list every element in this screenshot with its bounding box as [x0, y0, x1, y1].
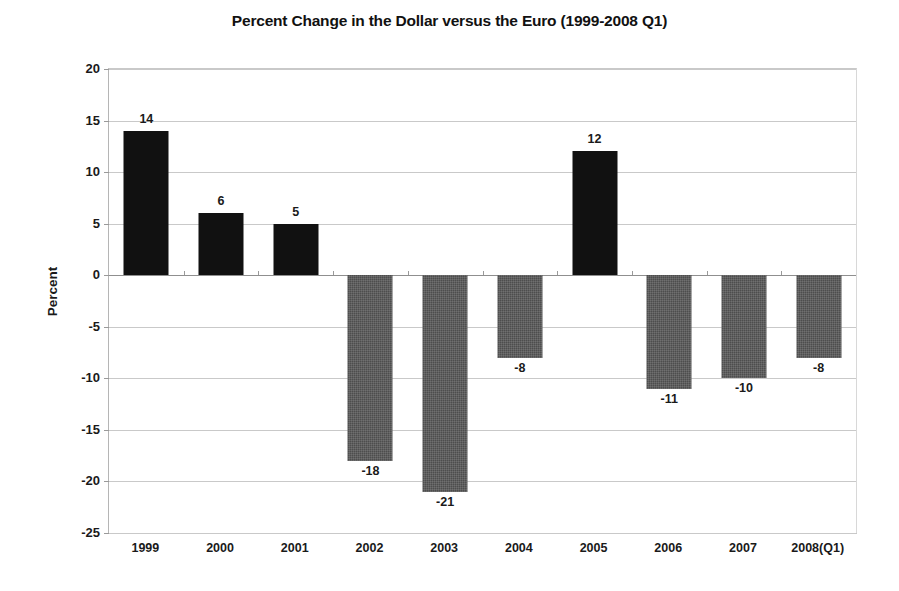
y-axis-tick-labels: 20151050-5-10-15-20-25: [40, 68, 100, 534]
x-axis-tick-label: 2000: [206, 541, 234, 555]
x-axis-tick-label: 2005: [580, 541, 608, 555]
bar-group: -8: [781, 69, 856, 533]
bar-chart: Percent Change in the Dollar versus the …: [0, 0, 899, 591]
x-axis-tick-label: 2007: [729, 541, 757, 555]
y-axis-tick-label: 5: [54, 215, 100, 230]
bar[interactable]: [423, 275, 468, 492]
plot-area: 1465-18-21-812-11-10-8: [108, 68, 857, 534]
bar[interactable]: [721, 275, 766, 378]
bar[interactable]: [273, 224, 318, 276]
y-axis-tick-label: 20: [54, 61, 100, 76]
bar-value-label: -18: [361, 464, 379, 478]
bar[interactable]: [647, 275, 692, 388]
y-axis-tick-label: -10: [54, 370, 100, 385]
x-axis-tick-label: 2001: [281, 541, 309, 555]
bar-value-label: -10: [735, 381, 753, 395]
bar-group: 14: [109, 69, 184, 533]
x-axis-tick-label: 1999: [131, 541, 159, 555]
chart-title: Percent Change in the Dollar versus the …: [0, 12, 899, 30]
x-axis-tick-label: 2006: [654, 541, 682, 555]
bar-value-label: -11: [661, 392, 678, 406]
bar-group: 5: [258, 69, 333, 533]
x-axis-tick-label: 2003: [430, 541, 458, 555]
bar[interactable]: [348, 275, 393, 461]
bar-group: -10: [707, 69, 782, 533]
bar-value-label: 6: [218, 194, 225, 208]
bar[interactable]: [572, 151, 617, 275]
bar[interactable]: [199, 213, 244, 275]
y-axis-tick-label: -25: [54, 525, 100, 540]
bar-value-label: -8: [813, 361, 824, 375]
y-axis-tick-label: -20: [54, 473, 100, 488]
bar-group: -8: [483, 69, 558, 533]
bar-value-label: -8: [514, 361, 525, 375]
bar-group: -21: [408, 69, 483, 533]
bar-group: 6: [184, 69, 259, 533]
bar-group: -11: [632, 69, 707, 533]
bar-group: 12: [557, 69, 632, 533]
y-axis-tick-label: -15: [54, 421, 100, 436]
x-axis-tick-labels: 1999200020012002200320042005200620072008…: [108, 541, 857, 565]
y-axis-tick: [104, 533, 109, 534]
bar-value-label: 5: [292, 205, 299, 219]
y-axis-tick-label: 15: [54, 112, 100, 127]
x-axis-tick-label: 2004: [505, 541, 533, 555]
y-axis-tick-label: 10: [54, 164, 100, 179]
bar-value-label: -21: [436, 495, 454, 509]
bar-group: -18: [333, 69, 408, 533]
x-axis-tick-label: 2008(Q1): [791, 541, 844, 555]
bar[interactable]: [796, 275, 841, 357]
x-axis-tick-label: 2002: [356, 541, 384, 555]
bar[interactable]: [124, 131, 169, 275]
y-axis-tick-label: 0: [54, 267, 100, 282]
y-axis-tick-label: -5: [54, 318, 100, 333]
bar-value-label: 12: [588, 132, 602, 146]
bar-value-label: 14: [139, 112, 153, 126]
bar[interactable]: [497, 275, 542, 357]
gridline: [109, 533, 856, 534]
